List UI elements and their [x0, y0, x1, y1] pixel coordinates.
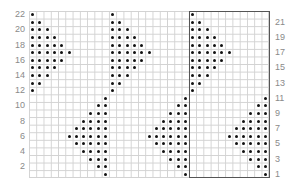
row-label-right: 17 [275, 48, 289, 57]
stitch-dot [31, 82, 34, 85]
row-label-right: 1 [275, 170, 289, 179]
stitch-dot [148, 51, 151, 54]
stitch-dot [126, 51, 129, 54]
stitch-dot [264, 97, 267, 100]
row-label-left: 4 [11, 147, 25, 156]
row-label-right: 21 [275, 18, 289, 27]
stitch-dot [206, 74, 209, 77]
grid [29, 11, 269, 178]
stitch-dot [31, 44, 34, 47]
stitch-dot [155, 135, 158, 138]
stitch-dot [111, 44, 114, 47]
stitch-dot [97, 120, 100, 123]
stitch-dot [184, 112, 187, 115]
stitch-dot [213, 44, 216, 47]
stitch-dot [257, 120, 260, 123]
row-label-right: 7 [275, 124, 289, 133]
stitch-dot [97, 112, 100, 115]
stitch-dot [104, 158, 107, 161]
stitch-dot [89, 158, 92, 161]
stitch-dot [104, 150, 107, 153]
stitch-dot [46, 59, 49, 62]
stitch-dot [126, 74, 129, 77]
stitch-dot [220, 44, 223, 47]
row-label-right: 9 [275, 109, 289, 118]
stitch-dot [184, 120, 187, 123]
row-label-right: 13 [275, 79, 289, 88]
stitch-dot [97, 165, 100, 168]
stitch-dot [75, 127, 78, 130]
stitch-dot [104, 135, 107, 138]
stitch-dot [264, 165, 267, 168]
stitch-dot [111, 59, 114, 62]
stitch-dot [75, 135, 78, 138]
stitch-dot [184, 150, 187, 153]
stitch-dot [264, 135, 267, 138]
row-label-left: 12 [11, 86, 25, 95]
row-label-left: 2 [11, 162, 25, 171]
stitch-dot [126, 59, 129, 62]
stitch-dot [53, 59, 56, 62]
stitch-dot [162, 150, 165, 153]
row-label-left: 6 [11, 132, 25, 141]
row-label-left: 20 [11, 25, 25, 34]
stitch-dot [206, 59, 209, 62]
stitch-dot [104, 173, 107, 176]
stitch-dot [177, 165, 180, 168]
stitch-dot [140, 44, 143, 47]
stitch-dot [257, 127, 260, 130]
stitch-dot [184, 173, 187, 176]
stitch-dot [104, 112, 107, 115]
stitch-dot [111, 21, 114, 24]
stitch-dot [60, 44, 63, 47]
stitch-dot [184, 158, 187, 161]
row-label-right: 19 [275, 33, 289, 42]
stitch-dot [177, 158, 180, 161]
stitch-dot [177, 150, 180, 153]
stitch-dot [104, 120, 107, 123]
stitch-dot [169, 158, 172, 161]
stitch-dot [97, 150, 100, 153]
stitch-dot [31, 59, 34, 62]
stitch-dot [249, 120, 252, 123]
stitch-dot [97, 135, 100, 138]
stitch-dot [264, 158, 267, 161]
stitch-dot [177, 112, 180, 115]
stitch-dot [242, 135, 245, 138]
stitch-dot [257, 150, 260, 153]
stitch-dot [126, 44, 129, 47]
stitch-dot [213, 36, 216, 39]
stitch-dot [155, 127, 158, 130]
stitch-dot [191, 59, 194, 62]
stitch-dot [257, 165, 260, 168]
stitch-dot [206, 51, 209, 54]
stitch-dot [264, 150, 267, 153]
stitch-dot [46, 36, 49, 39]
stitch-dot [133, 36, 136, 39]
stitch-dot [68, 135, 71, 138]
row-label-left: 14 [11, 71, 25, 80]
stitch-dot [82, 150, 85, 153]
row-label-right: 5 [275, 139, 289, 148]
stitch-dot [46, 44, 49, 47]
stitch-dot [46, 74, 49, 77]
stitch-dot [68, 51, 71, 54]
stitch-dot [235, 127, 238, 130]
stitch-dot [111, 82, 114, 85]
stitch-dot [133, 44, 136, 47]
stitch-dot [191, 44, 194, 47]
row-label-left: 8 [11, 117, 25, 126]
stitch-dot [148, 135, 151, 138]
row-label-left: 16 [11, 56, 25, 65]
stitch-dot [235, 135, 238, 138]
stitch-dot [206, 36, 209, 39]
stitch-dot [249, 158, 252, 161]
stitch-dot [89, 120, 92, 123]
stitch-dot [97, 127, 100, 130]
stitch-dot [191, 21, 194, 24]
stitch-dot [162, 135, 165, 138]
stitch-dot [162, 120, 165, 123]
stitch-dot [184, 135, 187, 138]
row-label-left: 10 [11, 101, 25, 110]
stitch-dot [53, 44, 56, 47]
